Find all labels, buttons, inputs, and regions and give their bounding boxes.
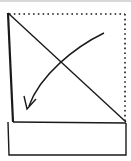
fold-arrow-curve bbox=[29, 33, 104, 106]
triangle-base bbox=[13, 122, 126, 123]
left-edge bbox=[8, 13, 13, 122]
lower-strip bbox=[8, 122, 126, 155]
fold-diagram bbox=[0, 0, 131, 161]
